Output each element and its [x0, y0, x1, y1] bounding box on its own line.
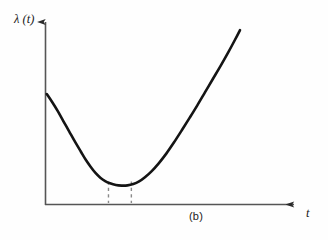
- y-axis-label: λ (t): [14, 13, 34, 26]
- figure-caption: (b): [189, 210, 203, 222]
- hazard-rate-curve: [47, 30, 240, 186]
- figure-container: λ (t) t (b): [0, 0, 328, 240]
- hazard-rate-chart: [0, 0, 328, 240]
- figure-caption-wrapper: (b): [0, 210, 328, 222]
